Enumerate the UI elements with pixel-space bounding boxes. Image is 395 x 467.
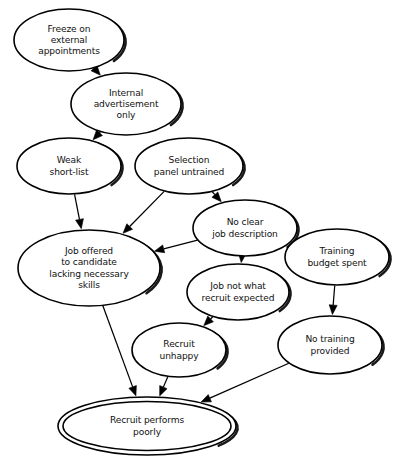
edge-job_not_expected-to-recruit_unhappy bbox=[204, 316, 214, 326]
node-label: Job not whatrecruit expected bbox=[202, 281, 275, 302]
edge-panel_untrained-to-no_job_desc bbox=[212, 192, 221, 202]
edge-line bbox=[103, 306, 133, 387]
edge-panel_untrained-to-job_offered bbox=[123, 191, 164, 233]
node-performs_poorly[interactable]: Recruit performspoorly bbox=[58, 397, 238, 455]
node-no_training[interactable]: No trainingprovided bbox=[278, 316, 384, 374]
cause-effect-graph: Freeze onexternalappointmentsInternaladv… bbox=[0, 0, 395, 467]
edge-training_budget-to-no_training bbox=[329, 285, 337, 314]
node-label: No trainingprovided bbox=[305, 334, 354, 355]
edge-arrowhead bbox=[329, 305, 337, 315]
node-job_offered[interactable]: Job offeredto candidatelacking necessary… bbox=[18, 230, 162, 306]
edge-line bbox=[210, 363, 289, 398]
edge-arrowhead bbox=[154, 245, 164, 253]
edge-line bbox=[75, 194, 80, 219]
edge-arrowhead bbox=[160, 386, 167, 396]
node-recruit_unhappy[interactable]: Recruitunhappy bbox=[132, 323, 228, 377]
nodes-layer: Freeze onexternalappointmentsInternaladv… bbox=[14, 9, 391, 455]
node-internal_ad[interactable]: Internaladvertisementonly bbox=[71, 73, 183, 135]
node-freeze[interactable]: Freeze onexternalappointments bbox=[14, 9, 126, 71]
edge-line bbox=[164, 240, 198, 249]
node-panel_untrained[interactable]: Selectionpanel untrained bbox=[135, 138, 245, 194]
diagram-canvas: Freeze onexternalappointmentsInternaladv… bbox=[0, 0, 395, 467]
node-training_budget[interactable]: Trainingbudget spent bbox=[285, 229, 391, 285]
edge-arrowhead bbox=[201, 395, 211, 403]
node-job_not_expected[interactable]: Job not whatrecruit expected bbox=[187, 264, 291, 320]
edge-line bbox=[212, 192, 215, 195]
edge-no_job_desc-to-job_offered bbox=[154, 240, 197, 253]
edge-arrowhead bbox=[129, 386, 137, 396]
edge-line bbox=[163, 377, 167, 387]
edge-weak_shortlist-to-job_offered bbox=[75, 194, 84, 228]
edge-no_training-to-performs_poorly bbox=[201, 363, 289, 402]
edge-arrowhead bbox=[76, 219, 84, 229]
edge-line bbox=[130, 191, 164, 226]
node-no_job_desc[interactable]: No clearjob description bbox=[193, 200, 299, 256]
node-label: Recruitunhappy bbox=[160, 339, 200, 360]
edge-line bbox=[333, 285, 335, 305]
node-weak_shortlist[interactable]: Weakshort-list bbox=[17, 138, 123, 194]
edge-recruit_unhappy-to-performs_poorly bbox=[160, 377, 168, 396]
